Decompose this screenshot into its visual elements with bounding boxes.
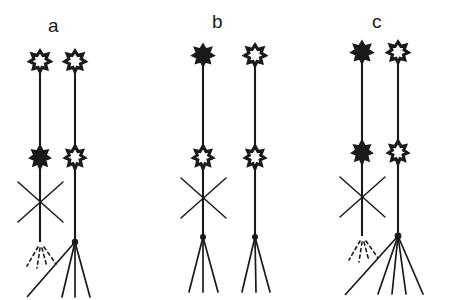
panel-a-group <box>18 51 90 297</box>
panel-a-plant-left <box>18 51 75 297</box>
intact-roots-solid <box>242 237 270 292</box>
top-flower-outline-icon <box>388 42 409 63</box>
intact-roots-solid <box>378 236 423 294</box>
panel-c-plant-left <box>340 42 398 295</box>
mid-flower-filled-icon <box>352 141 371 164</box>
panel-b-plant-left <box>181 45 226 292</box>
mid-flower-filled-icon <box>30 146 49 169</box>
top-flower-filled-icon <box>193 45 214 66</box>
top-flower-filled-icon <box>352 42 373 63</box>
intact-roots-solid <box>62 242 90 297</box>
panel-label-b: b <box>212 12 223 31</box>
panel-c-group <box>340 42 423 295</box>
mid-flower-outline-icon <box>193 146 212 169</box>
mid-flower-outline-icon <box>388 141 407 164</box>
top-flower-outline-icon <box>65 51 86 72</box>
graft-connector-line <box>345 236 398 295</box>
panel-a-plant-right <box>62 51 90 297</box>
severed-roots-dashed <box>27 247 56 268</box>
figure-canvas: a b c <box>0 0 459 300</box>
panel-b-group <box>181 45 270 292</box>
intact-roots-solid <box>189 237 218 292</box>
panel-label-a: a <box>48 16 59 35</box>
panel-b-plant-right <box>242 45 270 292</box>
top-flower-outline-icon <box>245 45 266 66</box>
mid-flower-outline-icon <box>65 146 84 169</box>
plant-diagram-svg <box>0 0 459 300</box>
top-flower-outline-icon <box>30 51 51 72</box>
mid-flower-outline-icon <box>245 146 264 169</box>
panel-label-c: c <box>372 12 382 31</box>
severed-roots-dashed <box>349 241 378 262</box>
panel-c-plant-right <box>378 42 423 294</box>
